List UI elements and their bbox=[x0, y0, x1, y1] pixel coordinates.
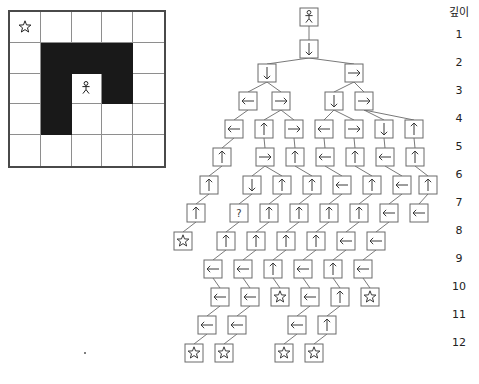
tree-node-arrow-left-icon bbox=[234, 260, 252, 278]
tree-edge bbox=[183, 222, 196, 232]
tree-node-arrow-down-icon bbox=[258, 64, 276, 82]
tree-edge bbox=[267, 82, 281, 92]
depth-legend-title: 깊이 bbox=[440, 6, 478, 19]
maze-cell-r2-c3 bbox=[102, 74, 133, 105]
maze-cell-r1-c2 bbox=[72, 43, 103, 74]
tree-node-arrow-left-icon bbox=[316, 148, 334, 166]
tree-edge bbox=[239, 194, 252, 204]
tree-node-arrow-right-icon bbox=[285, 120, 303, 138]
tree-node-arrow-left-icon bbox=[376, 148, 394, 166]
tree-edge bbox=[207, 306, 220, 316]
tree-edge bbox=[194, 334, 207, 344]
depth-label-9: 9 bbox=[440, 245, 478, 273]
tree-edge bbox=[354, 138, 355, 148]
tree-node-question-icon: ? bbox=[230, 204, 248, 222]
tree-node-arrow-down-icon bbox=[243, 176, 261, 194]
maze-grid bbox=[8, 10, 166, 168]
tree-edge bbox=[264, 138, 265, 148]
tree-node-arrow-left-icon bbox=[301, 288, 319, 306]
maze-cell-r0-c1 bbox=[41, 12, 72, 43]
tree-node-arrow-up-icon bbox=[320, 204, 338, 222]
maze-cell-r4-c2 bbox=[72, 135, 103, 166]
tree-edge bbox=[333, 278, 340, 288]
tree-node-arrow-up-icon bbox=[331, 288, 349, 306]
tree-node-arrow-up-icon bbox=[264, 260, 282, 278]
tree-edge bbox=[363, 250, 376, 260]
maze-cell-r3-c0 bbox=[10, 104, 41, 135]
tree-edge bbox=[281, 110, 294, 120]
tree-edge bbox=[222, 138, 234, 148]
tree-edge bbox=[314, 334, 327, 344]
depth-label-1: 1 bbox=[440, 21, 478, 49]
tree-node-star-icon bbox=[271, 288, 289, 306]
tree-node-arrow-right-icon bbox=[345, 64, 363, 82]
tree-edge bbox=[333, 250, 346, 260]
maze-cell-r3-c2 bbox=[72, 104, 103, 135]
tree-edge bbox=[252, 166, 265, 176]
maze-cell-r2-c2 bbox=[72, 74, 103, 105]
tree-node-arrow-up-icon bbox=[324, 260, 342, 278]
tree-node-arrow-left-icon bbox=[354, 260, 372, 278]
tree-edge bbox=[243, 278, 250, 288]
tree-node-arrow-left-icon bbox=[228, 316, 246, 334]
tree-node-arrow-up-icon bbox=[307, 232, 325, 250]
tree-edge bbox=[196, 194, 209, 204]
tree-node-star-icon bbox=[275, 344, 293, 362]
tree-node-arrow-left-icon bbox=[211, 288, 229, 306]
tree-edge bbox=[234, 110, 248, 120]
tree-edge bbox=[297, 306, 310, 316]
tree-node-layer: ? bbox=[174, 8, 437, 362]
tree-node-arrow-left-icon bbox=[241, 288, 259, 306]
maze-cell-r1-c1 bbox=[41, 43, 72, 74]
depth-label-2: 2 bbox=[440, 49, 478, 77]
maze-cell-r0-c0 bbox=[10, 12, 41, 43]
maze-cell-r3-c3 bbox=[102, 104, 133, 135]
depth-label-4: 4 bbox=[440, 105, 478, 133]
tree-node-arrow-up-icon bbox=[255, 120, 273, 138]
tree-node-arrow-left-icon bbox=[393, 176, 411, 194]
tree-node-arrow-down-icon bbox=[300, 40, 318, 58]
tree-node-star-icon bbox=[305, 344, 323, 362]
tree-edge bbox=[264, 110, 281, 120]
tree-node-arrow-up-icon bbox=[247, 232, 265, 250]
tree-edge bbox=[363, 278, 370, 288]
tree-edge bbox=[294, 138, 295, 148]
tree-edge bbox=[316, 222, 329, 232]
tree-edge bbox=[213, 250, 226, 260]
tree-node-star-icon bbox=[361, 288, 379, 306]
maze-cell-r3-c4 bbox=[133, 104, 164, 135]
tree-node-arrow-up-icon bbox=[363, 176, 381, 194]
tree-edge bbox=[334, 82, 354, 92]
tree-edge bbox=[224, 334, 237, 344]
star-icon bbox=[10, 12, 40, 42]
svg-text:?: ? bbox=[236, 208, 241, 219]
tree-edge bbox=[324, 138, 325, 148]
maze-cell-r2-c0 bbox=[10, 74, 41, 105]
maze-cell-r4-c3 bbox=[102, 135, 133, 166]
tree-node-arrow-up-icon bbox=[318, 316, 336, 334]
tree-node-arrow-up-icon bbox=[286, 148, 304, 166]
tree-edge bbox=[267, 58, 309, 64]
tree-edge bbox=[256, 222, 269, 232]
tree-edge bbox=[237, 306, 250, 316]
tree-node-arrow-up-icon bbox=[346, 148, 364, 166]
tree-node-arrow-left-icon bbox=[294, 260, 312, 278]
tree-edge bbox=[243, 250, 256, 260]
tree-node-arrow-left-icon bbox=[288, 316, 306, 334]
tree-edge bbox=[327, 306, 340, 316]
maze-cell-r2-c4 bbox=[133, 74, 164, 105]
tree-node-arrow-left-icon bbox=[239, 92, 257, 110]
tree-edge bbox=[334, 110, 354, 120]
tree-edge bbox=[295, 166, 312, 176]
tree-edge bbox=[414, 138, 415, 148]
tree-edge bbox=[265, 166, 282, 176]
tree-node-arrow-up-icon bbox=[419, 176, 437, 194]
tree-edge bbox=[389, 194, 402, 204]
tree-edge bbox=[415, 166, 428, 176]
tree-node-arrow-left-icon bbox=[225, 120, 243, 138]
maze-cell-r3-c1 bbox=[41, 104, 72, 135]
tree-edge bbox=[284, 334, 297, 344]
tree-edge bbox=[324, 110, 334, 120]
tree-edge bbox=[355, 166, 372, 176]
depth-legend: 깊이 123456789101112 bbox=[440, 6, 478, 357]
